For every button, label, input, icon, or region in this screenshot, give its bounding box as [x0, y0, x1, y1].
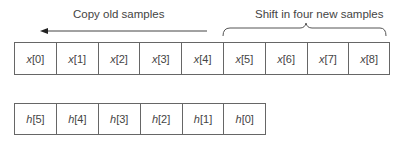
x-cell: x[5] [224, 43, 266, 74]
x-cell: x[4] [182, 43, 224, 74]
left-arrow-icon [40, 28, 207, 34]
h-cell: h[5] [15, 104, 57, 134]
h-cell: h[0] [224, 104, 265, 134]
x-cell: x[7] [308, 43, 350, 74]
x-cell: x[0] [15, 43, 57, 74]
x-cell: x[6] [266, 43, 308, 74]
x-sample-buffer: x[0] x[1] x[2] x[3] x[4] x[5] x[6] x[7] … [14, 42, 390, 75]
h-cell: h[2] [141, 104, 183, 134]
x-cell: x[3] [140, 43, 182, 74]
h-cell: h[1] [183, 104, 225, 134]
h-coefficient-buffer: h[5] h[4] h[3] h[2] h[1] h[0] [14, 103, 266, 135]
h-cell: h[3] [99, 104, 141, 134]
h-cell: h[4] [57, 104, 99, 134]
x-cell: x[8] [349, 43, 389, 74]
curly-brace-icon [223, 23, 386, 36]
x-cell: x[2] [99, 43, 141, 74]
x-cell: x[1] [57, 43, 99, 74]
